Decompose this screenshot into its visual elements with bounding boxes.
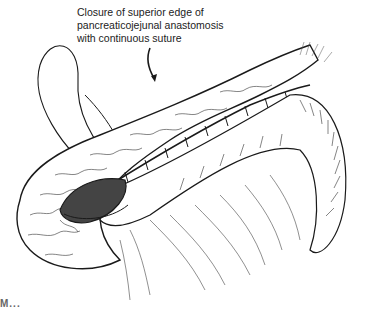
pointer-arrow	[148, 48, 154, 78]
figure-label-partial: M...	[0, 298, 21, 309]
